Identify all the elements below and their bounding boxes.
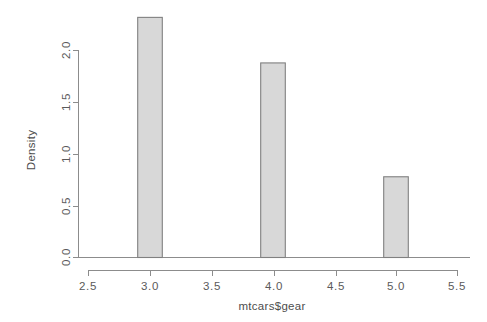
- bar-3.0: [138, 17, 163, 257]
- x-tick-label-4: 4.5: [327, 280, 345, 292]
- x-tick-label-6: 5.5: [448, 280, 466, 292]
- x-tick-label-0: 2.5: [79, 280, 97, 292]
- x-tick-label-3: 4.0: [265, 280, 283, 292]
- y-tick-label-4: 2.0: [60, 41, 72, 59]
- bars-group: [138, 17, 409, 257]
- y-axis: 2.0 1.5 1.0 0.5 0.0 Density: [25, 41, 79, 266]
- histogram-plot: 2.0 1.5 1.0 0.5 0.0 Density 2.5 3.0: [0, 0, 487, 322]
- y-axis-title: Density: [25, 130, 37, 170]
- x-tick-label-1: 3.0: [141, 280, 159, 292]
- y-tick-label-0: 0.0: [60, 248, 72, 266]
- plot-canvas: 2.0 1.5 1.0 0.5 0.0 Density 2.5 3.0: [0, 0, 487, 322]
- x-axis: 2.5 3.0 3.5 4.0 4.5 5.0 5.5 mtcars$gear: [79, 271, 466, 313]
- bar-4.0: [261, 63, 286, 258]
- x-axis-title: mtcars$gear: [238, 300, 305, 312]
- x-tick-label-5: 5.0: [387, 280, 405, 292]
- y-tick-label-2: 1.0: [60, 145, 72, 163]
- bar-5.0: [384, 177, 409, 258]
- y-tick-label-1: 0.5: [60, 197, 72, 215]
- y-tick-label-3: 1.5: [60, 93, 72, 111]
- x-tick-label-2: 3.5: [203, 280, 221, 292]
